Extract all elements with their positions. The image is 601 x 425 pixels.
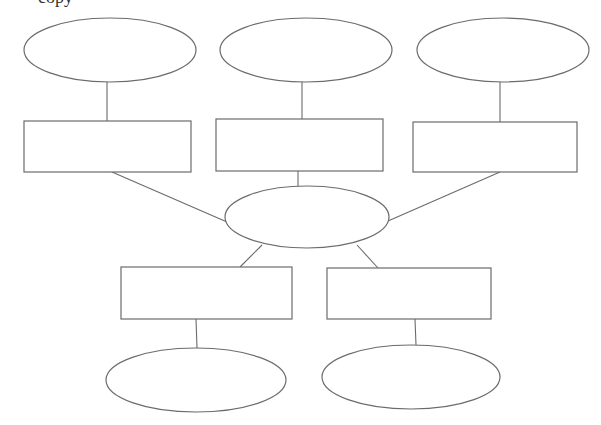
top-box-3-shape[interactable] — [413, 122, 577, 172]
connector-line — [388, 172, 500, 221]
top-ellipse-3-shape[interactable] — [417, 18, 589, 82]
top-ellipse-2-shape[interactable] — [220, 18, 392, 82]
bottom-box-1[interactable] — [121, 267, 292, 319]
connector-line — [357, 245, 378, 268]
shapes — [24, 18, 589, 412]
connector-line — [112, 172, 227, 222]
top-box-3[interactable] — [413, 122, 577, 172]
connector-line — [196, 319, 197, 348]
bottom-box-2[interactable] — [327, 268, 491, 319]
connector-line — [240, 245, 262, 267]
bottom-ellipse-1[interactable] — [106, 348, 286, 412]
top-ellipse-1-shape[interactable] — [24, 18, 196, 82]
graphic-organizer-diagram — [0, 0, 601, 425]
top-box-2[interactable] — [216, 119, 383, 171]
top-box-2-shape[interactable] — [216, 119, 383, 171]
center-ellipse[interactable] — [225, 186, 389, 248]
bottom-ellipse-1-shape[interactable] — [106, 348, 286, 412]
center-ellipse-shape[interactable] — [225, 186, 389, 248]
connector-line — [415, 319, 416, 345]
top-ellipse-1[interactable] — [24, 18, 196, 82]
bottom-box-1-shape[interactable] — [121, 267, 292, 319]
bottom-ellipse-2-shape[interactable] — [322, 345, 500, 409]
top-ellipse-3[interactable] — [417, 18, 589, 82]
bottom-ellipse-2[interactable] — [322, 345, 500, 409]
top-box-1-shape[interactable] — [24, 121, 191, 172]
top-box-1[interactable] — [24, 121, 191, 172]
top-ellipse-2[interactable] — [220, 18, 392, 82]
bottom-box-2-shape[interactable] — [327, 268, 491, 319]
